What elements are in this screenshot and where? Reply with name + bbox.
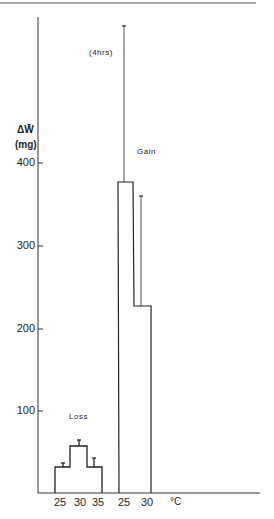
x-label-loss-30: 30 (70, 496, 90, 508)
y-tick-400: 400 (5, 156, 35, 168)
loss-label: Loss (69, 412, 88, 421)
loss-bars (55, 440, 102, 493)
chart-canvas (0, 0, 274, 519)
x-label-loss-35: 35 (88, 496, 108, 508)
x-label-gain-30: 30 (137, 496, 157, 508)
x-label-gain-25: 25 (114, 496, 134, 508)
x-label-loss-25: 25 (50, 496, 70, 508)
y-tick-100: 100 (5, 404, 35, 416)
y-axis-symbol: ΔW̄ (17, 124, 34, 135)
y-axis-unit: (mg) (15, 139, 37, 150)
y-tick-300: 300 (5, 239, 35, 251)
y-ticks (38, 163, 43, 411)
x-axis-unit: °C (170, 496, 181, 507)
y-tick-200: 200 (5, 322, 35, 334)
time-annotation: (4hrs) (89, 48, 113, 57)
gain-label: Gain (137, 147, 156, 156)
gain-bars (118, 26, 151, 493)
